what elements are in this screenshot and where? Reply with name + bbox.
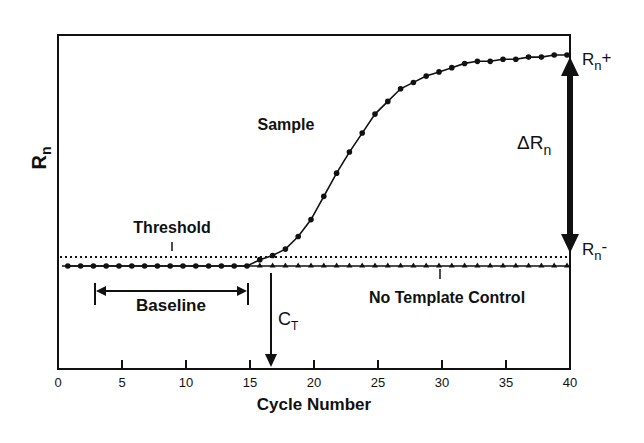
sample-point [257, 257, 263, 263]
amplification-plot: 0510152025303540 Cycle Number Rn Thresho… [0, 0, 644, 443]
sample-point [206, 263, 212, 269]
baseline-label: Baseline [136, 296, 206, 315]
rn-plus-label: Rn+ [582, 48, 612, 73]
sample-point [500, 56, 506, 62]
ntc-point [334, 263, 340, 268]
sample-label: Sample [258, 116, 315, 133]
ntc-point [423, 263, 429, 268]
ntc-label: No Template Control [369, 289, 525, 306]
sample-point [513, 56, 519, 62]
ntc-point [282, 263, 288, 268]
ntc-point [321, 263, 327, 268]
x-axis-ticks [58, 360, 570, 369]
threshold-label: Threshold [133, 219, 210, 236]
x-tick-label: 5 [118, 375, 125, 390]
ntc-point [474, 263, 480, 268]
sample-point [219, 263, 225, 269]
ntc-point [257, 263, 263, 268]
ct-label: CT [278, 309, 299, 333]
sample-point [334, 170, 340, 176]
svg-text:Rn: Rn [28, 146, 54, 169]
sample-point [475, 59, 481, 65]
plot-frame [58, 35, 570, 369]
y-axis-label: Rn [28, 146, 54, 169]
sample-point [347, 149, 353, 155]
sample-point [91, 263, 97, 269]
sample-point [78, 263, 84, 269]
ntc-point [359, 263, 365, 268]
sample-point [65, 263, 71, 269]
sample-point [180, 263, 186, 269]
x-tick-label: 25 [371, 375, 385, 390]
ntc-point [398, 263, 404, 268]
x-axis-label: Cycle Number [257, 395, 372, 414]
sample-point [167, 263, 173, 269]
ntc-point [385, 263, 391, 268]
ntc-point [308, 263, 314, 268]
x-tick-label: 35 [499, 375, 513, 390]
ntc-point [436, 263, 442, 268]
sample-point [423, 73, 429, 79]
sample-point [116, 263, 122, 269]
sample-point [155, 263, 161, 269]
sample-point [129, 263, 135, 269]
ntc-point [513, 263, 519, 268]
sample-point [142, 263, 148, 269]
ntc-point [346, 263, 352, 268]
sample-point [103, 263, 109, 269]
ct-arrow [265, 273, 277, 367]
sample-point [564, 52, 570, 58]
sample-point [526, 54, 532, 60]
sample-point [551, 52, 557, 58]
sample-point [321, 194, 327, 200]
sample-point [385, 99, 391, 105]
sample-point [308, 217, 314, 223]
sample-point [372, 111, 378, 117]
ntc-point [462, 263, 468, 268]
delta-rn-arrow [561, 57, 579, 253]
sample-point [411, 80, 417, 86]
x-axis-tick-labels: 0510152025303540 [54, 375, 577, 390]
x-tick-label: 40 [563, 375, 577, 390]
sample-point [487, 59, 493, 65]
x-tick-label: 20 [307, 375, 321, 390]
sample-point [539, 54, 545, 60]
sample-markers [65, 52, 570, 269]
sample-point [449, 65, 455, 71]
ntc-point [410, 263, 416, 268]
ntc-point [526, 263, 532, 268]
ntc-point [538, 263, 544, 268]
x-tick-label: 0 [54, 375, 61, 390]
sample-point [231, 263, 237, 269]
x-tick-label: 15 [243, 375, 257, 390]
x-tick-label: 30 [435, 375, 449, 390]
x-tick-label: 10 [179, 375, 193, 390]
sample-point [283, 246, 289, 252]
delta-rn-label: ΔRn [517, 132, 551, 158]
ntc-point [551, 263, 557, 268]
rn-minus-label: Rn- [582, 237, 607, 263]
sample-point [295, 234, 301, 240]
ntc-point [372, 263, 378, 268]
sample-point [436, 69, 442, 75]
sample-point [398, 86, 404, 92]
ntc-point [487, 263, 493, 268]
sample-point [462, 61, 468, 67]
ntc-point [270, 263, 276, 268]
sample-point [193, 263, 199, 269]
sample-point [359, 130, 365, 136]
ntc-point [295, 263, 301, 268]
sample-point [244, 263, 250, 269]
ntc-point [500, 263, 506, 268]
ntc-point [449, 263, 455, 268]
sample-point [270, 253, 276, 259]
